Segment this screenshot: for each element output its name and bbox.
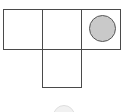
grid-cell-row1-col1[interactable] bbox=[42, 49, 82, 88]
circle-token-icon[interactable] bbox=[89, 15, 116, 42]
grid-cell-row0-col1[interactable] bbox=[42, 9, 82, 50]
grid-cell-row0-col0[interactable] bbox=[3, 9, 43, 50]
diagram-canvas bbox=[0, 0, 127, 112]
clipped-circle-token-icon bbox=[53, 105, 75, 112]
